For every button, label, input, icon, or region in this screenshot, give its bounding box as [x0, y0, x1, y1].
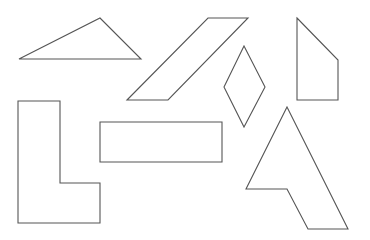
triangle-shape [19, 18, 141, 59]
l-shape [18, 101, 100, 223]
pentagon-shape [297, 18, 338, 100]
rhombus-shape [224, 46, 265, 127]
arrow-pentagon-shape [246, 107, 348, 229]
shapes-diagram [0, 0, 370, 240]
rectangle-shape [100, 122, 222, 162]
